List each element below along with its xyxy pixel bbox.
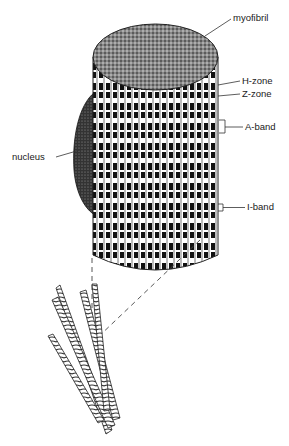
label-myofibril: myofibril: [233, 13, 268, 23]
label-a-band: A-band: [245, 122, 276, 132]
label-h-zone: H-zone: [242, 76, 273, 86]
myofibril-cylinder: [93, 24, 218, 270]
fibre-bundle: [48, 284, 120, 434]
label-nucleus: nucleus: [12, 152, 45, 162]
muscle-fibre-diagram: [0, 0, 289, 446]
label-i-band: I-band: [247, 202, 274, 212]
nucleus-shape: [74, 92, 95, 215]
label-z-zone: Z-zone: [242, 89, 272, 99]
